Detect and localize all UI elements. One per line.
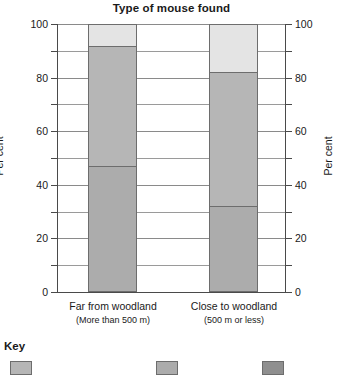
tick-right-20 (286, 238, 292, 239)
tick-left-50 (51, 158, 57, 159)
ytick-label-right-20: 20 (295, 233, 335, 244)
category-label-main-0: Far from woodland (69, 300, 157, 312)
tick-left-70 (51, 104, 57, 105)
y-axis-title-right: Per cent (322, 136, 334, 175)
tick-left-90 (51, 51, 57, 52)
key-heading: Key (4, 340, 25, 352)
ytick-label-left-40: 40 (8, 180, 48, 191)
bar-close-to-woodland (209, 24, 258, 292)
ytick-label-left-0: 0 (8, 287, 48, 298)
ytick-label-right-0: 0 (295, 287, 335, 298)
ytick-label-right-80: 80 (295, 73, 335, 84)
tick-right-60 (286, 131, 292, 132)
x-axis-baseline (57, 292, 286, 293)
y-axis-title-left: Per cent (0, 136, 5, 175)
key-swatch-1 (156, 361, 178, 375)
bar-segment-top (88, 24, 137, 47)
bar-far-from-woodland (88, 24, 137, 292)
plot-area (57, 24, 285, 292)
category-label-main-1: Close to woodland (191, 300, 277, 312)
tick-right-30 (286, 212, 292, 213)
y-axis-left-spine (57, 24, 58, 293)
ytick-label-left-60: 60 (8, 126, 48, 137)
tick-left-30 (51, 212, 57, 213)
bar-segment-top (209, 24, 258, 73)
category-label-far-from-woodland: Far from woodland (More than 500 m) (48, 300, 178, 327)
bar-segment-bottom (88, 166, 137, 292)
bar-segment-middle (209, 72, 258, 207)
bar-segment-middle (88, 46, 137, 167)
tick-right-90 (286, 51, 292, 52)
tick-right-10 (286, 265, 292, 266)
tick-left-40 (51, 185, 57, 186)
category-label-close-to-woodland: Close to woodland (500 m or less) (169, 300, 299, 327)
tick-left-0 (51, 292, 57, 293)
ytick-label-left-20: 20 (8, 233, 48, 244)
ytick-label-right-100: 100 (295, 19, 335, 30)
tick-left-80 (51, 78, 57, 79)
bar-segment-bottom (209, 206, 258, 292)
tick-right-0 (286, 292, 292, 293)
tick-left-100 (51, 24, 57, 25)
tick-right-70 (286, 104, 292, 105)
ytick-label-right-40: 40 (295, 180, 335, 191)
tick-left-10 (51, 265, 57, 266)
tick-right-50 (286, 158, 292, 159)
category-label-sub-1: (500 m or less) (169, 314, 299, 327)
ytick-label-left-100: 100 (8, 19, 48, 30)
tick-right-80 (286, 78, 292, 79)
tick-right-40 (286, 185, 292, 186)
ytick-label-right-60: 60 (295, 126, 335, 137)
ytick-label-left-80: 80 (8, 73, 48, 84)
key-swatch-2 (262, 361, 284, 375)
key-swatch-0 (10, 361, 32, 375)
tick-left-60 (51, 131, 57, 132)
category-label-sub-0: (More than 500 m) (48, 314, 178, 327)
chart-title: Type of mouse found (0, 2, 343, 14)
tick-right-100 (286, 24, 292, 25)
tick-left-20 (51, 238, 57, 239)
